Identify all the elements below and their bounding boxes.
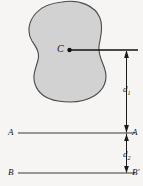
dimension-d1-label: d1 xyxy=(123,85,131,96)
axis-a-right-label: A xyxy=(132,128,138,137)
axis-a-left-label: A xyxy=(8,128,14,137)
centroid-label: C xyxy=(57,44,64,54)
d1-arrow-bottom xyxy=(124,125,129,133)
dimension-d1-subscript: 1 xyxy=(128,90,131,96)
axis-b-right-prime: ′ xyxy=(138,167,140,177)
axis-b-right-label: B′ xyxy=(132,168,139,177)
d1-arrow-top xyxy=(124,50,129,58)
body-shape xyxy=(29,1,106,102)
figure-canvas xyxy=(0,0,143,186)
dimension-d2-subscript: 2 xyxy=(128,155,131,161)
axis-b-left-label: B xyxy=(8,168,14,177)
d2-arrow-top xyxy=(124,134,129,141)
d2-arrow-bottom xyxy=(124,166,129,173)
dimension-d2-label: d2 xyxy=(123,150,131,161)
parallel-axis-figure: C d1 d2 A A B B′ xyxy=(0,0,143,186)
axis-a-right-letter: A xyxy=(132,127,138,137)
